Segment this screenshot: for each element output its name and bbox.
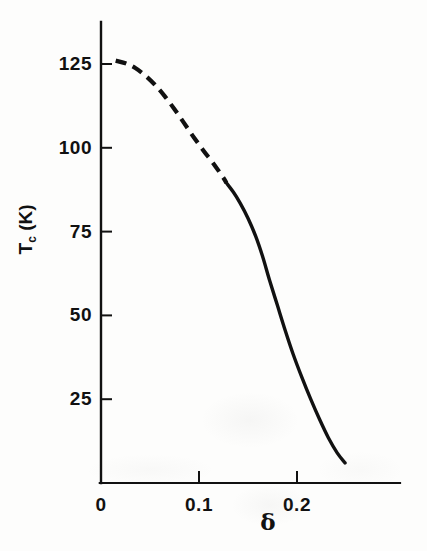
data-series-line: [116, 61, 227, 183]
y-axis-tick-label: 100: [59, 138, 92, 157]
x-axis-tick-label: 0.1: [169, 495, 229, 514]
y-axis-title-unit: (K): [15, 204, 36, 236]
y-axis-title-base: T: [15, 243, 36, 255]
x-axis-tick-label: 0: [71, 495, 131, 514]
y-axis-tick-label: 75: [70, 222, 92, 241]
data-series-group: [116, 61, 345, 463]
plot-canvas: [0, 0, 427, 551]
figure-container: 255075100125 00.10.2 Tc (K) δ: [0, 0, 427, 551]
y-axis-title-subscript: c: [25, 236, 39, 243]
y-axis-tick-label: 125: [59, 54, 92, 73]
y-axis-tick-label: 25: [70, 389, 92, 408]
data-series-line: [226, 183, 345, 463]
y-axis-tick-label: 50: [70, 305, 92, 324]
x-axis-tick-marks: [199, 471, 297, 483]
y-axis-tick-marks: [101, 64, 112, 399]
x-axis-title: δ: [248, 510, 288, 533]
y-axis-title: Tc (K): [16, 212, 39, 254]
